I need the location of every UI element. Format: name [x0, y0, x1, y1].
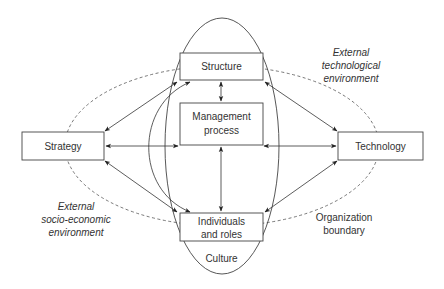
node-structure: Structure [180, 53, 263, 80]
organization-model-diagram: Structure Management process Individuals… [0, 0, 444, 289]
external-socio-label-line1: External [58, 201, 95, 212]
node-strategy-label: Strategy [44, 141, 81, 152]
node-structure-label: Structure [201, 61, 242, 72]
external-tech-label-line2: technological [322, 60, 381, 71]
arrow-technology-structure [265, 82, 337, 131]
connector-arrows [105, 82, 337, 212]
org-boundary-label-line1: Organization [316, 212, 373, 223]
culture-label: Culture [205, 253, 238, 264]
arrow-structure-individuals-curved [149, 82, 190, 212]
external-tech-label-line3: environment [323, 73, 379, 84]
external-socio-label-line2: socio-economic [41, 214, 110, 225]
external-socio-label-line3: environment [48, 227, 104, 238]
node-individuals-roles: Individuals and roles [180, 213, 263, 241]
external-tech-label-line1: External [333, 47, 370, 58]
node-strategy: Strategy [22, 132, 104, 160]
node-management-process: Management process [180, 103, 263, 145]
node-individuals-label-line2: and roles [201, 229, 242, 240]
node-management-label-line2: process [204, 125, 239, 136]
node-technology-label: Technology [355, 141, 406, 152]
org-boundary-label-line2: boundary [323, 225, 365, 236]
node-management-label-line1: Management [192, 111, 251, 122]
node-individuals-label-line1: Individuals [198, 216, 245, 227]
node-technology: Technology [338, 132, 423, 160]
